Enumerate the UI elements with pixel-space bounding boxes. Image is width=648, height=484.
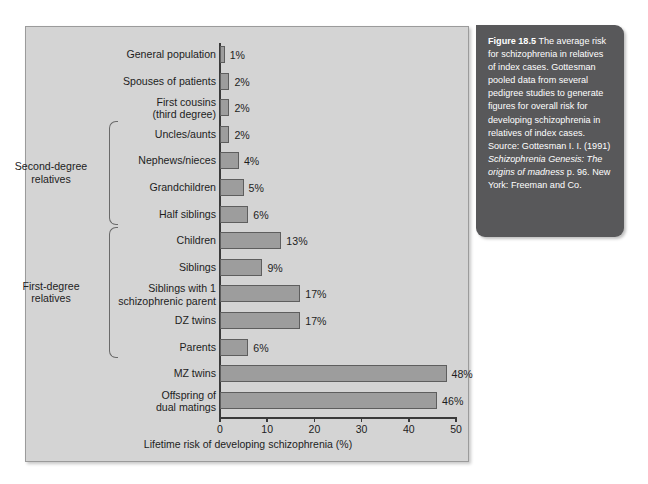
bar-value-label: 1% (230, 49, 245, 61)
caption-source-prefix: Source: Gottesman I. I. (1991) (488, 141, 610, 151)
bar-row: Parents6% (26, 338, 470, 364)
x-tick (314, 417, 316, 422)
bar (220, 285, 300, 302)
bar-value-label: 17% (305, 315, 326, 327)
bar-category-label: Half siblings (36, 208, 216, 220)
bar (220, 179, 244, 196)
group-bracket-label: First-degree relatives (0, 280, 106, 305)
bar-value-label: 48% (452, 368, 473, 380)
bar (220, 152, 239, 169)
bar (220, 46, 225, 63)
bar-row: First cousins (third degree)2% (26, 98, 470, 124)
caption-body: The average risk for schizophrenia in re… (488, 36, 606, 138)
bar-value-label: 4% (244, 155, 259, 167)
bar (220, 99, 229, 116)
bar-category-label: Offspring of dual matings (36, 389, 216, 413)
bar-category-label: Parents (36, 341, 216, 353)
bar (220, 392, 437, 409)
bar-value-label: 13% (286, 235, 307, 247)
bar-category-label: MZ twins (36, 367, 216, 379)
bar-value-label: 2% (234, 76, 249, 88)
bar-row: Offspring of dual matings46% (26, 391, 470, 417)
bar (220, 259, 262, 276)
x-tick (266, 417, 268, 422)
bar-value-label: 2% (234, 129, 249, 141)
x-tick-label: 30 (347, 423, 377, 435)
bar (220, 126, 229, 143)
bar-row: Half siblings6% (26, 205, 470, 231)
figure-18-5: 01020304050 General population1%Spouses … (0, 0, 648, 484)
x-tick (219, 417, 221, 422)
x-axis-line (219, 417, 456, 419)
group-bracket (109, 121, 118, 225)
bar (220, 206, 248, 223)
bar (220, 73, 229, 90)
bar (220, 232, 281, 249)
x-axis-title: Lifetime risk of developing schizophreni… (26, 438, 470, 450)
x-tick-label: 40 (394, 423, 424, 435)
figure-caption: Figure 18.5 The average risk for schizop… (476, 25, 624, 237)
x-tick-label: 0 (205, 423, 235, 435)
bar-value-label: 5% (249, 182, 264, 194)
x-tick-label: 20 (299, 423, 329, 435)
bar-category-label: Siblings (36, 261, 216, 273)
bar-row: General population1% (26, 45, 470, 71)
chart-panel: 01020304050 General population1%Spouses … (25, 26, 469, 462)
bar-value-label: 6% (253, 209, 268, 221)
bar-row: Children13% (26, 231, 470, 257)
x-tick-label: 50 (441, 423, 471, 435)
bar (220, 365, 447, 382)
caption-figure-number: Figure 18.5 (488, 36, 536, 46)
bar-category-label: General population (36, 48, 216, 60)
bar-value-label: 46% (442, 395, 463, 407)
x-tick-label: 10 (252, 423, 282, 435)
bar-value-label: 6% (253, 342, 268, 354)
bar-row: Uncles/aunts2% (26, 125, 470, 151)
plot-area: 01020304050 General population1%Spouses … (26, 27, 468, 461)
group-bracket-label: Second-degree relatives (0, 160, 106, 185)
bar (220, 312, 300, 329)
bar-row: MZ twins48% (26, 364, 470, 390)
x-tick (455, 417, 457, 422)
bar-category-label: DZ twins (36, 314, 216, 326)
bar-category-label: Spouses of patients (36, 75, 216, 87)
x-tick (408, 417, 410, 422)
bar-category-label: Children (36, 234, 216, 246)
group-bracket (109, 227, 118, 358)
bar-row: Spouses of patients2% (26, 72, 470, 98)
bar-category-label: Uncles/aunts (36, 128, 216, 140)
bar-value-label: 9% (267, 262, 282, 274)
bar-value-label: 17% (305, 288, 326, 300)
bar-category-label: First cousins (third degree) (36, 96, 216, 120)
x-tick (361, 417, 363, 422)
bar (220, 339, 248, 356)
bar-value-label: 2% (234, 102, 249, 114)
bar-row: DZ twins17% (26, 311, 470, 337)
